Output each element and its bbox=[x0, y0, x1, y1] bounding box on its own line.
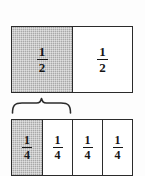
fraction-one-quarter: 1 4 bbox=[22, 134, 32, 162]
quarter-cell-unshaded: 1 4 bbox=[72, 120, 102, 175]
fraction-one-half: 1 2 bbox=[37, 45, 48, 75]
fraction-one-quarter: 1 4 bbox=[53, 134, 63, 162]
fraction-denominator: 4 bbox=[85, 149, 91, 161]
fraction-numerator: 1 bbox=[99, 45, 106, 58]
fraction-one-quarter: 1 4 bbox=[83, 134, 93, 162]
quarter-cell-shaded: 1 4 bbox=[12, 120, 42, 175]
curly-brace-icon bbox=[11, 97, 72, 114]
fraction-numerator: 1 bbox=[55, 134, 61, 146]
fraction-numerator: 1 bbox=[39, 45, 46, 58]
fraction-denominator: 2 bbox=[39, 61, 46, 74]
fraction-numerator: 1 bbox=[85, 134, 91, 146]
halves-bar: 1 2 1 2 bbox=[11, 26, 133, 93]
quarter-cell-unshaded: 1 4 bbox=[102, 120, 132, 175]
fraction-denominator: 4 bbox=[55, 149, 61, 161]
fraction-one-quarter: 1 4 bbox=[113, 134, 123, 162]
half-cell-unshaded: 1 2 bbox=[72, 27, 132, 92]
fraction-numerator: 1 bbox=[24, 134, 30, 146]
half-cell-shaded: 1 2 bbox=[12, 27, 72, 92]
quarters-bar: 1 4 1 4 1 4 1 4 bbox=[11, 119, 133, 176]
fraction-denominator: 4 bbox=[115, 149, 121, 161]
fraction-denominator: 4 bbox=[24, 149, 30, 161]
fraction-one-half: 1 2 bbox=[97, 45, 108, 75]
fraction-numerator: 1 bbox=[115, 134, 121, 146]
quarter-cell-unshaded: 1 4 bbox=[42, 120, 72, 175]
brace-annotation bbox=[11, 97, 72, 114]
fraction-figure: 1 2 1 2 1 4 bbox=[0, 0, 145, 176]
fraction-denominator: 2 bbox=[99, 61, 106, 74]
